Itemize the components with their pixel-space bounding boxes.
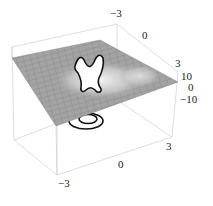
z-axis-tick-neg10: −10 [180, 94, 197, 105]
back-axis-tick-3: 3 [175, 58, 181, 69]
back-axis-tick-neg3: −3 [110, 8, 122, 19]
surface [12, 40, 178, 126]
front-axis-tick-3: 3 [166, 141, 172, 152]
back-axis-tick-0: 0 [142, 30, 148, 41]
z-axis-tick-0: 0 [188, 82, 194, 93]
front-axis-tick-0: 0 [118, 159, 124, 170]
front-axis-tick-neg3: −3 [58, 178, 70, 189]
